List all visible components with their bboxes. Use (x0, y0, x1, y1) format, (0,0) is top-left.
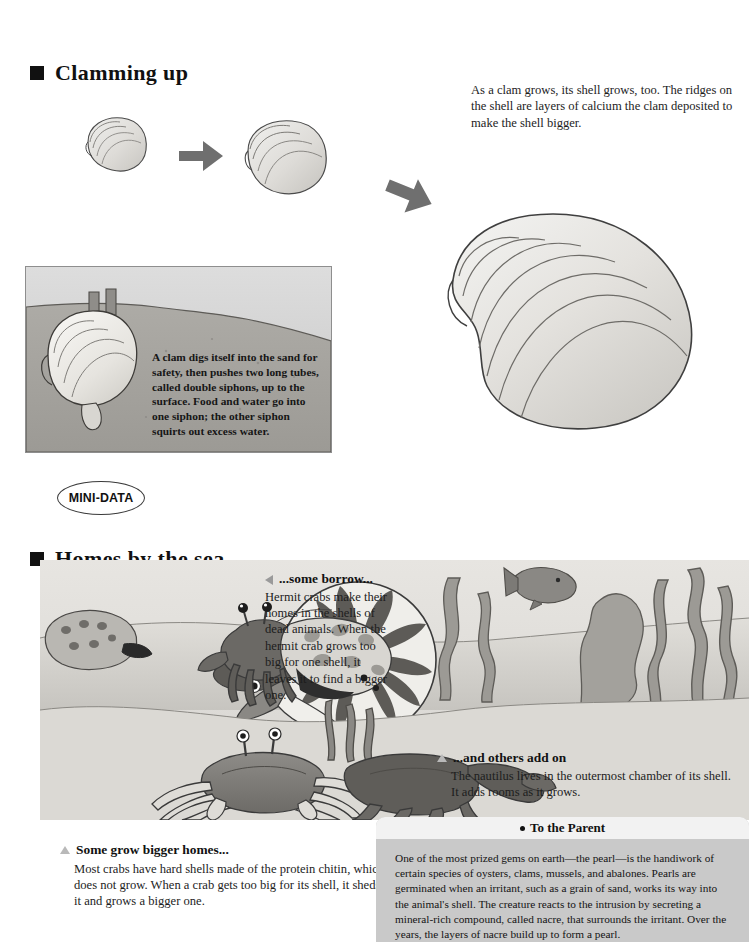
callout-some-grow-bigger-homes: Some grow bigger homes... Most crabs hav… (60, 843, 390, 910)
callout-heading: ...and others add on (437, 751, 737, 766)
to-the-parent-title-wrap: To the Parent (520, 820, 605, 836)
callout-heading: Some grow bigger homes... (60, 843, 390, 858)
callout-head-text: Some grow bigger homes... (76, 843, 229, 858)
callout-and-others-add-on: ...and others add on The nautilus lives … (437, 751, 737, 800)
callout-head-text: ...some borrow... (279, 572, 373, 587)
callout-body-text: Most crabs have hard shells made of the … (74, 861, 390, 910)
to-the-parent-header: To the Parent (376, 817, 749, 839)
square-bullet-icon (30, 66, 44, 80)
callout-heading: ...some borrow... (265, 572, 393, 587)
large-clam-shell-illustration (433, 200, 723, 450)
triangle-left-icon (265, 575, 273, 585)
page-title: Clamming up (55, 60, 188, 86)
callout-some-borrow: ...some borrow... Hermit crabs make thei… (265, 572, 393, 703)
triangle-up-icon (60, 846, 70, 854)
dot-bullet-icon (520, 826, 525, 831)
triangle-up-icon (437, 754, 447, 762)
callout-body-text: The nautilus lives in the outermost cham… (451, 768, 737, 801)
mini-data-label: MINI-DATA (69, 491, 134, 505)
clam-growth-description: As a clam grows, its shell grows, too. T… (471, 82, 733, 131)
small-clam-shell-illustration (80, 112, 152, 176)
clam-siphon-caption: A clam digs itself into the sand for saf… (152, 350, 324, 439)
arrow-right-icon-2 (381, 172, 437, 224)
to-the-parent-body: One of the most prized gems on earth—the… (395, 851, 731, 942)
section-heading-clamming-up: Clamming up (30, 60, 188, 86)
to-the-parent-title: To the Parent (530, 820, 605, 836)
callout-head-text: ...and others add on (453, 751, 566, 766)
arrow-right-icon-1 (175, 137, 227, 181)
medium-clam-shell-illustration (238, 115, 334, 201)
to-the-parent-box: To the Parent One of the most prized gem… (376, 817, 749, 942)
callout-body-text: Hermit crabs make their homes in the she… (265, 589, 393, 704)
page-canvas: Clamming up As a clam grows, its shell g… (0, 0, 749, 942)
mini-data-badge: MINI-DATA (57, 481, 145, 515)
